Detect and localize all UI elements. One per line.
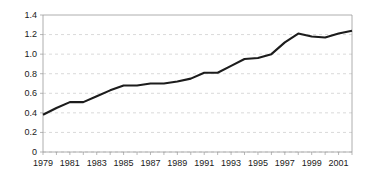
y-tick-label-1.4: 1.4 [24, 10, 37, 20]
x-tick-label-1983: 1983 [87, 158, 107, 168]
data-series-group [43, 31, 352, 115]
line-chart: 00.20.40.60.81.01.21.4 19791981198319851… [0, 0, 378, 187]
y-tick-label-0.6: 0.6 [24, 88, 37, 98]
chart-canvas: 00.20.40.60.81.01.21.4 19791981198319851… [0, 0, 378, 187]
x-tick-label-1985: 1985 [114, 158, 134, 168]
y-tick-label-0: 0 [32, 147, 37, 157]
data-line-series-0 [43, 31, 352, 115]
x-tick-label-1991: 1991 [194, 158, 214, 168]
y-tick-label-0.2: 0.2 [24, 127, 37, 137]
y-tick-label-0.8: 0.8 [24, 69, 37, 79]
gridlines-group [43, 35, 352, 152]
x-tick-label-1987: 1987 [140, 158, 160, 168]
y-tick-label-1.2: 1.2 [24, 29, 37, 39]
x-axis-tick-labels: 1979198119831985198719891991199319951997… [33, 158, 349, 168]
y-tick-label-0.4: 0.4 [24, 108, 37, 118]
x-tick-label-1995: 1995 [248, 158, 268, 168]
x-tickmarks-group [43, 152, 352, 155]
x-tick-label-1989: 1989 [167, 158, 187, 168]
x-tick-label-2001: 2001 [329, 158, 349, 168]
x-tick-label-1979: 1979 [33, 158, 53, 168]
x-tick-label-1981: 1981 [60, 158, 80, 168]
x-tick-label-1997: 1997 [275, 158, 295, 168]
x-tick-label-1993: 1993 [221, 158, 241, 168]
x-tick-label-1999: 1999 [302, 158, 322, 168]
y-axis-tick-labels: 00.20.40.60.81.01.21.4 [24, 10, 37, 157]
y-tick-label-1.0: 1.0 [24, 49, 37, 59]
